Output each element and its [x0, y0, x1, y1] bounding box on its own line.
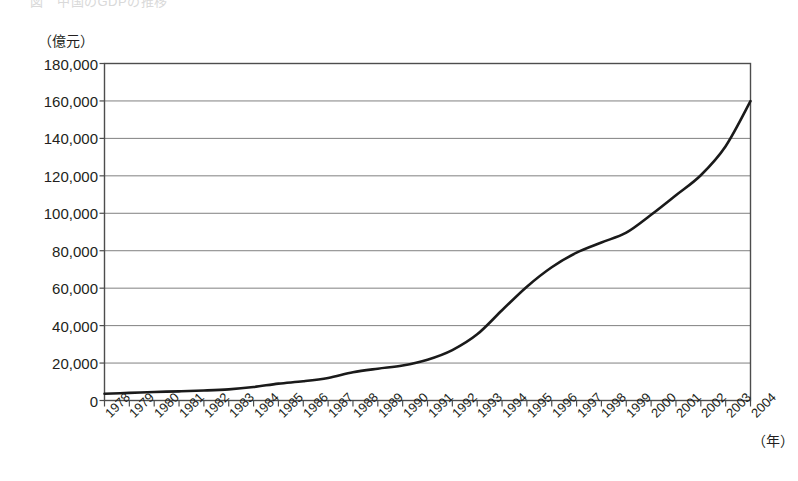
x-axis-tick-label: 2002 — [698, 390, 729, 421]
x-axis-tick-label: 1999 — [623, 390, 654, 421]
x-axis-tick-label: 1993 — [474, 390, 505, 421]
x-axis-tick-label: 1998 — [598, 390, 629, 421]
x-axis-tick-labels: 1978197919801981198219831984198519861987… — [0, 0, 798, 481]
x-axis-tick-label: 1989 — [375, 390, 406, 421]
x-axis-tick-label: 1997 — [574, 390, 605, 421]
x-axis-tick-label: 1995 — [524, 390, 555, 421]
x-axis-tick-label: 1980 — [151, 390, 182, 421]
x-axis-tick-label: 1990 — [400, 390, 431, 421]
chart-figure: 図 中国のGDPの推移 （億元） 020,00040,00060,00080,0… — [0, 0, 798, 481]
x-axis-tick-label: 1979 — [126, 390, 157, 421]
x-axis-unit-label: （年） — [752, 430, 794, 450]
x-axis-tick-label: 2004 — [748, 390, 779, 421]
x-axis-tick-label: 1978 — [102, 390, 133, 421]
x-axis-tick-label: 1985 — [275, 390, 306, 421]
x-axis-tick-label: 1992 — [449, 390, 480, 421]
x-axis-tick-label: 1983 — [226, 390, 257, 421]
x-axis-tick-label: 2001 — [673, 390, 704, 421]
x-axis-tick-label: 2000 — [648, 390, 679, 421]
x-axis-tick-label: 1984 — [251, 390, 282, 421]
x-axis-tick-label: 1991 — [425, 390, 456, 421]
x-axis-tick-label: 1996 — [549, 390, 580, 421]
x-axis-tick-label: 1994 — [499, 390, 530, 421]
x-axis-tick-label: 1988 — [350, 390, 381, 421]
x-axis-tick-label: 1981 — [176, 390, 207, 421]
x-axis-tick-label: 1982 — [201, 390, 232, 421]
x-axis-tick-label: 2003 — [723, 390, 754, 421]
x-axis-tick-label: 1986 — [300, 390, 331, 421]
x-axis-tick-label: 1987 — [325, 390, 356, 421]
